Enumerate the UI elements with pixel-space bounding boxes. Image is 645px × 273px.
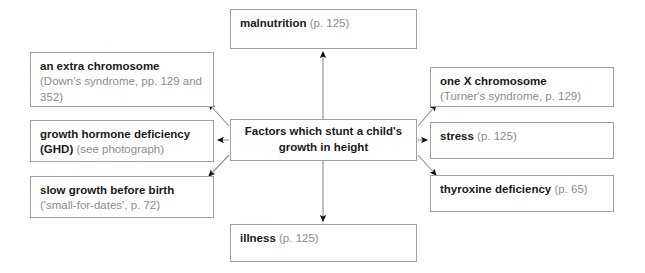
node-one-x-chromosome: one X chromosome (Turner's syndrome, p. … (430, 67, 614, 107)
node-malnutrition-ref: (p. 125) (310, 17, 350, 29)
node-extra-chromosome-ref: (Down's syndrome, pp. 129 and 352) (40, 75, 202, 102)
center-line-1: Factors which stunt a child's (245, 125, 402, 137)
node-slow-growth-before-birth-ref: ('small-for-dates', p. 72) (40, 199, 160, 211)
node-thyroxine-deficiency-term: thyroxine deficiency (440, 183, 551, 195)
node-malnutrition-term: malnutrition (240, 17, 306, 29)
node-one-x-chromosome-ref: (Turner's syndrome, p. 129) (440, 90, 581, 102)
node-thyroxine-deficiency-ref: (p. 65) (554, 183, 587, 195)
node-malnutrition: malnutrition (p. 125) (230, 9, 417, 49)
node-one-x-chromosome-term: one X chromosome (440, 75, 547, 87)
node-stress-term: stress (440, 130, 474, 142)
node-stress: stress (p. 125) (430, 122, 614, 159)
node-stress-ref: (p. 125) (477, 130, 517, 142)
center-line-2: growth in height (279, 141, 368, 153)
node-illness-term: illness (240, 232, 276, 244)
node-illness-ref: (p. 125) (279, 232, 319, 244)
node-extra-chromosome: an extra chromosome (Down's syndrome, pp… (30, 52, 214, 107)
factors-stunting-growth-diagram: malnutrition (p. 125) an extra chromosom… (0, 0, 645, 273)
node-illness: illness (p. 125) (230, 224, 417, 262)
node-extra-chromosome-term: an extra chromosome (40, 60, 160, 72)
node-thyroxine-deficiency: thyroxine deficiency (p. 65) (430, 175, 614, 212)
node-slow-growth-before-birth: slow growth before birth ('small-for-dat… (30, 176, 214, 218)
node-slow-growth-before-birth-term: slow growth before birth (40, 184, 174, 196)
node-growth-hormone-deficiency-ref: (see photograph) (76, 143, 164, 155)
node-growth-hormone-deficiency: growth hormone deficiency (GHD) (see pho… (30, 120, 214, 162)
node-center-factors: Factors which stunt a child's growth in … (230, 119, 417, 161)
